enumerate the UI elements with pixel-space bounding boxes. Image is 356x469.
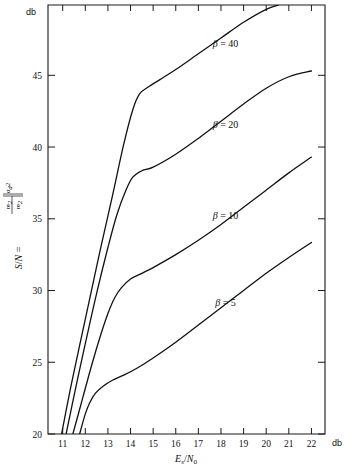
x-title-sub-0: 0 — [193, 458, 197, 466]
x-tick-label: 16 — [171, 439, 181, 449]
svg-text:σd2: σd2 — [4, 182, 14, 193]
x-tick-labels: 111213141516171819202122 — [58, 439, 316, 449]
svg-text:m2: m2 — [14, 200, 24, 209]
series-label-1: β = 10 — [212, 210, 239, 221]
x-tick-label: 13 — [103, 439, 113, 449]
x-axis-title: Es/N0 — [174, 453, 197, 466]
y-tick-label: 40 — [33, 143, 43, 153]
y-axis-unit-label: db — [26, 7, 36, 17]
x-tick-label: 21 — [284, 439, 294, 449]
series-label-0: β = 5 — [214, 297, 236, 308]
y-axis-title: S/N = — [13, 246, 24, 269]
x-tick-label: 15 — [148, 439, 158, 449]
series-label-3: β = 40 — [212, 38, 239, 49]
x-tick-label: 17 — [194, 439, 204, 449]
x-tick-label: 20 — [261, 439, 271, 449]
data-curves — [62, 5, 312, 434]
curve-beta-20 — [66, 71, 311, 434]
curve-beta-40 — [62, 5, 279, 434]
chart-figure: 111213141516171819202122 202530354045 β … — [0, 0, 356, 469]
x-tick-label: 22 — [307, 439, 317, 449]
x-axis-unit-label: db — [332, 438, 342, 448]
axes — [48, 5, 325, 434]
signal-to-noise-chart: 111213141516171819202122 202530354045 β … — [0, 0, 356, 469]
tick-marks — [48, 5, 325, 434]
y-axis-title-fraction: m2 m2 σd2 — [3, 182, 24, 214]
y-tick-label: 20 — [33, 430, 43, 440]
x-tick-label: 18 — [216, 439, 226, 449]
y-tick-label: 25 — [33, 358, 43, 368]
curve-beta-10 — [73, 157, 312, 434]
x-tick-label: 14 — [126, 439, 136, 449]
x-tick-label: 19 — [239, 439, 249, 449]
x-tick-label: 11 — [58, 439, 67, 449]
series-annotations: β = 5β = 10β = 20β = 40 — [212, 38, 239, 309]
y-tick-label: 30 — [33, 286, 43, 296]
y-tick-label: 35 — [33, 214, 43, 224]
svg-text:Es/N0: Es/N0 — [174, 453, 197, 466]
series-label-2: β = 20 — [212, 119, 239, 130]
x-tick-label: 12 — [81, 439, 91, 449]
svg-text:S/N =: S/N = — [13, 246, 24, 269]
curve-beta-5 — [80, 242, 312, 434]
x-title-E: E — [174, 453, 181, 464]
y-tick-labels: 202530354045 — [33, 71, 43, 440]
plot-frame — [48, 5, 325, 434]
y-tick-label: 45 — [33, 71, 43, 81]
